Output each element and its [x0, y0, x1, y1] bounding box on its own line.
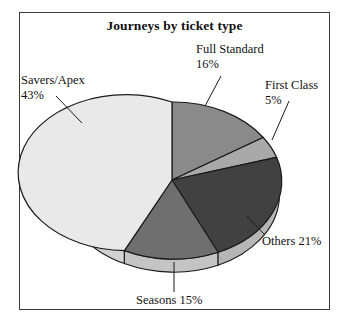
pie-label-first-class-name: First Class [265, 78, 318, 92]
pie-label-seasons-text: Seasons 15% [136, 293, 202, 307]
pie-label-savers-apex-pct: 43% [21, 88, 85, 103]
pie-label-first-class: First Class 5% [265, 78, 318, 108]
pie-chart-graphic [0, 0, 349, 328]
pie-top-face [18, 95, 282, 260]
pie-label-others: Others 21% [262, 234, 321, 249]
pie-label-others-text: Others 21% [262, 234, 321, 248]
pie-label-full-standard-name: Full Standard [196, 42, 264, 56]
pie-label-full-standard-pct: 16% [196, 57, 264, 72]
pie-label-seasons: Seasons 15% [136, 293, 202, 308]
pie-label-full-standard: Full Standard 16% [196, 42, 264, 72]
pie-label-first-class-pct: 5% [265, 93, 318, 108]
leader-line-full-standard [205, 76, 221, 106]
pie-label-savers-apex-name: Savers/Apex [21, 73, 85, 87]
figure-container: Journeys by ticket type [0, 0, 349, 328]
pie-label-savers-apex: Savers/Apex 43% [21, 73, 85, 103]
